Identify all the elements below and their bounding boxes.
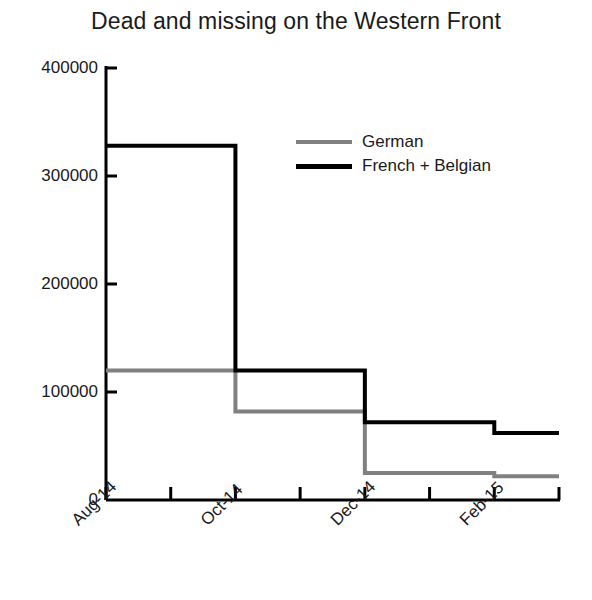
legend-label-french-belgian: French + Belgian [362, 156, 491, 176]
y-axis-ticks [106, 68, 117, 392]
legend-item-german: German [296, 130, 491, 154]
legend-swatch-french-belgian [296, 164, 352, 169]
chart-container: Dead and missing on the Western Front 40… [0, 0, 592, 600]
legend-item-french-belgian: French + Belgian [296, 154, 491, 178]
chart-legend: German French + Belgian [296, 130, 491, 178]
legend-swatch-german [296, 140, 352, 144]
series-line-french-belgian [106, 146, 559, 433]
legend-label-german: German [362, 132, 423, 152]
